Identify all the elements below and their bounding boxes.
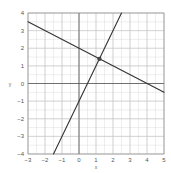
- x-tick-label: 0: [77, 157, 81, 163]
- x-axis-label: x: [95, 164, 98, 170]
- y-axis-label: y: [9, 81, 12, 87]
- x-tick-label: 4: [145, 157, 149, 163]
- y-tick-label: 3: [21, 28, 25, 34]
- x-tick-label: −3: [25, 157, 33, 163]
- x-tick-label: −1: [59, 157, 67, 163]
- intersection-point: [97, 57, 101, 61]
- x-tick-label: 2: [111, 157, 115, 163]
- y-tick-label: −4: [17, 151, 25, 157]
- y-tick-label: 2: [21, 45, 25, 51]
- x-tick-labels: −3−2−1012345: [25, 157, 167, 163]
- y-tick-labels: −4−3−2−101234: [17, 10, 25, 157]
- y-tick-label: −3: [17, 133, 25, 139]
- chart: −3−2−1012345 −4−3−2−101234 x y: [0, 0, 171, 173]
- x-tick-label: 5: [162, 157, 166, 163]
- x-tick-label: 1: [94, 157, 98, 163]
- y-tick-label: 1: [21, 63, 25, 69]
- x-tick-label: −2: [42, 157, 50, 163]
- x-tick-label: 3: [128, 157, 132, 163]
- y-tick-label: −1: [17, 98, 25, 104]
- y-tick-label: 0: [21, 81, 25, 87]
- y-tick-label: −2: [17, 116, 25, 122]
- y-tick-label: 4: [21, 10, 25, 16]
- annotation-points: [97, 57, 101, 61]
